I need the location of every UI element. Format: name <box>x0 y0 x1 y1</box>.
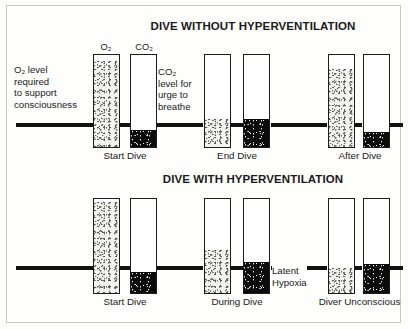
bar-top-end-o2 <box>204 54 231 148</box>
bar-header-co2: CO₂ <box>128 42 160 52</box>
co2-threshold-line-4: breathe <box>158 101 192 113</box>
bar-fill-co2 <box>364 132 389 147</box>
bar-bottom-start-o2 <box>93 198 120 294</box>
caption-top-start-dive: Start Dive <box>85 150 165 161</box>
co2-threshold-line-3: urge to <box>158 89 192 101</box>
o2-threshold-annotation: O₂ level required to support consciousne… <box>14 64 77 110</box>
bar-fill-co2 <box>244 262 269 293</box>
co2-threshold-annotation: CO₂ level for urge to breathe <box>158 66 192 112</box>
caption-bottom-start-dive: Start Dive <box>85 296 165 307</box>
bar-fill-co2 <box>131 272 156 293</box>
bar-top-after-co2 <box>363 54 390 148</box>
o2-threshold-line-segment-1 <box>16 123 94 127</box>
latent-hypoxia-annotation: Latent Hypoxia <box>272 265 307 288</box>
bar-fill-o2 <box>205 119 230 147</box>
latent-hypoxia-line-1: Latent <box>272 265 307 277</box>
bar-fill-co2 <box>131 130 156 147</box>
bar-top-end-co2 <box>243 54 270 148</box>
bar-header-o2: O₂ <box>92 42 120 52</box>
co2-threshold-line-1: CO₂ <box>158 66 192 78</box>
caption-top-after-dive: After Dive <box>320 150 400 161</box>
o2-threshold-line-bottom-segment-1 <box>16 266 94 270</box>
bar-fill-co2 <box>244 119 269 147</box>
latent-hypoxia-line-2: Hypoxia <box>272 277 307 289</box>
o2-threshold-line-bottom-segment-4 <box>231 266 243 270</box>
o2-threshold-line-bottom-segment-7 <box>389 266 403 270</box>
o2-threshold-line-segment-3 <box>156 123 203 127</box>
bar-bottom-start-co2 <box>130 198 157 294</box>
panel-title-with-hyperventilation: DIVE WITH HYPERVENTILATION <box>128 173 378 185</box>
o2-threshold-line-bottom-segment-3 <box>156 266 203 270</box>
o2-threshold-line-segment-4 <box>231 123 243 127</box>
bar-bottom-during-co2 <box>243 198 270 294</box>
bar-top-after-o2 <box>328 54 355 148</box>
bar-bottom-during-o2 <box>204 198 231 294</box>
panel-title-without-hyperventilation: DIVE WITHOUT HYPERVENTILATION <box>128 20 378 32</box>
bar-top-start-co2 <box>130 54 157 148</box>
o2-threshold-line-1: O₂ level <box>14 64 77 76</box>
caption-bottom-diver-unconscious: Diver Unconscious <box>312 296 407 307</box>
caption-bottom-during-dive: During Dive <box>197 296 277 307</box>
bar-fill-o2 <box>94 202 119 293</box>
bar-fill-o2 <box>205 250 230 293</box>
o2-threshold-line-4: consciousness <box>14 99 77 111</box>
bar-fill-o2 <box>329 268 354 293</box>
bar-fill-o2 <box>94 61 119 147</box>
o2-threshold-line-3: to support <box>14 87 77 99</box>
bar-top-start-o2 <box>93 54 120 148</box>
dive-hyperventilation-diagram: DIVE WITHOUT HYPERVENTILATION O₂ level r… <box>0 0 408 329</box>
o2-threshold-line-2: required <box>14 76 77 88</box>
bar-bottom-unconscious-o2 <box>328 198 355 294</box>
o2-threshold-line-segment-7 <box>389 123 403 127</box>
o2-threshold-line-segment-5 <box>271 123 327 127</box>
bar-fill-o2 <box>329 69 354 147</box>
bar-bottom-unconscious-co2 <box>363 198 390 294</box>
co2-threshold-line-2: level for <box>158 78 192 90</box>
bar-fill-co2 <box>364 264 389 293</box>
caption-top-end-dive: End Dive <box>197 150 277 161</box>
